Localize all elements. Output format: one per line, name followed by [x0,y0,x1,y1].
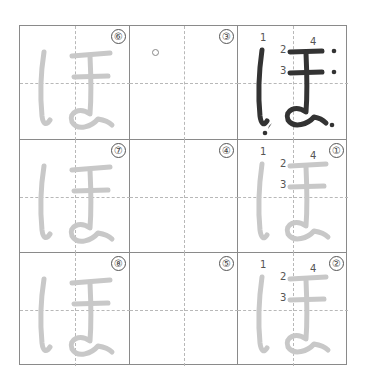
blank-cell-3[interactable]: ③ [130,26,238,140]
blank-cell-5[interactable]: ⑤ [130,253,238,366]
cell-order-badge: ⑥ [111,29,126,44]
ho-trace-glyph [238,140,348,253]
cell-order-badge: ③ [219,29,234,44]
ho-model-glyph [238,26,348,140]
stroke-number-3: 3 [280,180,286,190]
ho-trace-glyph [20,253,130,366]
cell-order-badge: ⑤ [219,256,234,271]
guide-horizontal [130,310,238,311]
cell-order-badge: ④ [219,143,234,158]
cell-order-badge: ⑧ [111,256,126,271]
practice-grid: ⑥ ③ 1 2 3 4 [19,25,347,365]
trace-cell-6[interactable]: ⑥ [20,26,130,140]
stroke-number-1: 1 [260,147,266,157]
cell-order-badge: ② [329,256,344,271]
stroke-number-4: 4 [310,37,316,47]
start-position-circle-icon [152,49,159,56]
blank-cell-4[interactable]: ④ [130,140,238,253]
stroke-number-4: 4 [310,264,316,274]
cell-order-badge: ⑦ [111,143,126,158]
model-cell: 1 2 3 4 [238,26,348,140]
trace-cell-8[interactable]: ⑧ [20,253,130,366]
stroke-number-2: 2 [280,45,286,55]
stroke-number-2: 2 [280,272,286,282]
guide-horizontal [130,83,238,84]
trace-cell-1[interactable]: 1 2 3 4 ① [238,140,348,253]
stroke-number-2: 2 [280,159,286,169]
ho-trace-glyph [20,26,130,140]
cell-order-badge: ① [329,143,344,158]
stroke-number-3: 3 [280,293,286,303]
stroke-number-1: 1 [260,33,266,43]
trace-cell-2[interactable]: 1 2 3 4 ② [238,253,348,366]
guide-horizontal [130,197,238,198]
stroke-number-3: 3 [280,66,286,76]
stroke-number-4: 4 [310,151,316,161]
trace-cell-7[interactable]: ⑦ [20,140,130,253]
ho-trace-glyph [238,253,348,366]
stroke-number-1: 1 [260,260,266,270]
ho-trace-glyph [20,140,130,253]
